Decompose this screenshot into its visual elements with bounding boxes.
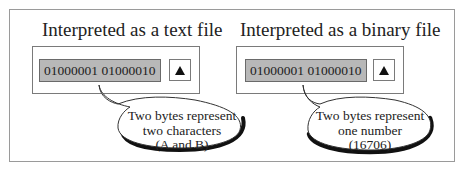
callout-line: one number <box>310 124 430 139</box>
text-file-callout: Two bytes represent two characters (A an… <box>122 109 242 153</box>
callout-line: two characters <box>122 124 242 139</box>
binary-file-callout: Two bytes represent one number (16706) <box>310 109 430 153</box>
callout-line: Two bytes represent <box>122 109 242 124</box>
callout-line: (16706) <box>310 138 430 153</box>
callout-line: (A and B) <box>122 138 242 153</box>
callout-line: Two bytes represent <box>310 109 430 124</box>
